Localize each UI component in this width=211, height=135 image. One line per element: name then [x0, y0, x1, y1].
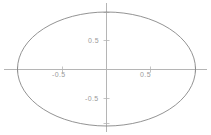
plot-canvas [0, 0, 211, 135]
ellipse-plot: -0.5 0.5 0.5 -0.5 [0, 0, 211, 135]
x-axis-tick-label-positive: 0.5 [140, 71, 151, 79]
y-axis-tick-label-negative: -0.5 [85, 95, 99, 103]
x-axis-tick-label-negative: -0.5 [52, 71, 66, 79]
y-axis-tick-label-positive: 0.5 [88, 37, 99, 45]
